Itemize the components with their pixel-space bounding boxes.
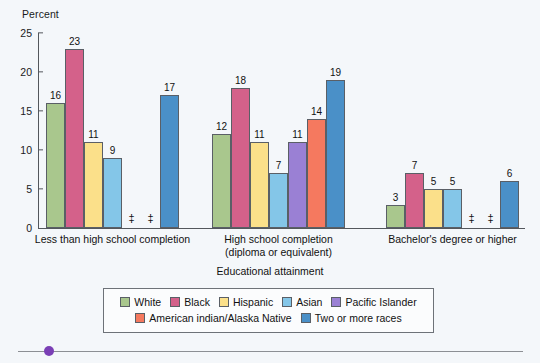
bar-value-label: 12 xyxy=(216,121,227,132)
legend-item-label: Two or more races xyxy=(315,312,402,324)
footer-divider xyxy=(18,351,523,352)
suppressed-value-marker: ‡ xyxy=(487,212,493,224)
legend-row-primary: WhiteBlackHispanicAsianPacific Islander xyxy=(112,294,425,310)
bar[interactable] xyxy=(405,173,424,228)
legend-item-label: Black xyxy=(184,296,210,308)
legend-item[interactable]: Two or more races xyxy=(301,312,402,324)
bar[interactable] xyxy=(326,80,345,228)
bar-value-label: 11 xyxy=(254,129,264,140)
y-axis-line xyxy=(38,33,39,229)
suppressed-value-marker: ‡ xyxy=(147,212,153,224)
bar-value-label: 5 xyxy=(450,176,456,187)
y-axis-tick-mark xyxy=(38,32,43,33)
legend-item[interactable]: Pacific Islander xyxy=(331,296,416,308)
legend-swatch-icon xyxy=(331,297,341,307)
legend: WhiteBlackHispanicAsianPacific Islander … xyxy=(103,288,434,333)
bar-value-label: 14 xyxy=(311,106,322,117)
y-axis-tick-label: 25 xyxy=(4,27,38,39)
suppressed-value-marker: ‡ xyxy=(468,212,474,224)
y-axis-tick-label: 15 xyxy=(4,105,38,117)
legend-swatch-icon xyxy=(170,297,180,307)
bar-value-label: 18 xyxy=(235,75,246,86)
plot-area: 05101520251623119‡‡1712181171114193755‡‡… xyxy=(38,33,525,229)
y-axis-tick-label: 10 xyxy=(4,144,38,156)
y-axis-tick-mark xyxy=(38,71,43,72)
bar-value-label: 19 xyxy=(330,67,341,78)
y-axis-title: Percent xyxy=(22,8,59,20)
bar[interactable] xyxy=(424,189,443,228)
suppressed-value-marker: ‡ xyxy=(128,212,134,224)
bar-value-label: 16 xyxy=(50,90,61,101)
x-axis-category-label: Less than high school completion xyxy=(35,233,190,246)
bar[interactable] xyxy=(443,189,462,228)
x-axis-category-label: High school completion(diploma or equiva… xyxy=(224,233,333,258)
legend-item[interactable]: American indian/Alaska Native xyxy=(135,312,291,324)
bar-value-label: 6 xyxy=(507,168,513,179)
y-axis-tick-mark xyxy=(38,149,43,150)
x-axis-category-label-line: High school completion xyxy=(224,233,333,246)
bar-group: 1218117111419 xyxy=(212,33,345,228)
bar-group: 1623119‡‡17 xyxy=(46,33,179,228)
y-axis-tick-mark xyxy=(38,188,43,189)
bar-group: 3755‡‡6 xyxy=(386,33,519,228)
bar-value-label: 7 xyxy=(276,160,282,171)
bar-value-label: 3 xyxy=(393,192,399,203)
footer-bullet-dot xyxy=(44,346,54,356)
bar-value-label: 17 xyxy=(164,82,175,93)
y-axis-tick-mark xyxy=(38,110,43,111)
bar-value-label: 23 xyxy=(69,36,80,47)
legend-swatch-icon xyxy=(135,313,145,323)
bar[interactable] xyxy=(212,134,231,228)
x-axis-title: Educational attainment xyxy=(0,265,540,277)
bar[interactable] xyxy=(386,205,405,228)
bar[interactable] xyxy=(103,158,122,228)
legend-swatch-icon xyxy=(120,297,130,307)
legend-item[interactable]: White xyxy=(120,296,161,308)
legend-item[interactable]: Asian xyxy=(282,296,322,308)
bar[interactable] xyxy=(65,49,84,228)
legend-item-label: American indian/Alaska Native xyxy=(149,312,291,324)
y-axis-tick-label: 20 xyxy=(4,66,38,78)
bar[interactable] xyxy=(307,119,326,228)
legend-item-label: White xyxy=(134,296,161,308)
bar[interactable] xyxy=(250,142,269,228)
legend-item-label: Asian xyxy=(296,296,322,308)
legend-row-secondary: American indian/Alaska NativeTwo or more… xyxy=(112,310,425,326)
bar[interactable] xyxy=(269,173,288,228)
x-axis-category-label-line: (diploma or equivalent) xyxy=(224,246,333,259)
bar-value-label: 5 xyxy=(431,176,437,187)
x-axis-category-label-line: Less than high school completion xyxy=(35,233,190,246)
y-axis-tick-label: 5 xyxy=(4,183,38,195)
legend-item-label: Hispanic xyxy=(233,296,273,308)
bar-chart-figure: Percent 05101520251623119‡‡1712181171114… xyxy=(0,0,540,363)
bar[interactable] xyxy=(46,103,65,228)
bar[interactable] xyxy=(231,88,250,228)
x-axis-category-label-line: Bachelor's degree or higher xyxy=(388,233,517,246)
bar[interactable] xyxy=(500,181,519,228)
legend-item[interactable]: Hispanic xyxy=(219,296,273,308)
bar-value-label: 11 xyxy=(88,129,98,140)
bar-value-label: 9 xyxy=(110,145,116,156)
legend-swatch-icon xyxy=(301,313,311,323)
legend-item[interactable]: Black xyxy=(170,296,210,308)
x-axis-category-label: Bachelor's degree or higher xyxy=(388,233,517,246)
legend-swatch-icon xyxy=(282,297,292,307)
bar-value-label: 7 xyxy=(412,160,418,171)
y-axis-tick-label: 0 xyxy=(4,222,38,234)
bar-value-label: 11 xyxy=(292,129,302,140)
legend-swatch-icon xyxy=(219,297,229,307)
bar[interactable] xyxy=(288,142,307,228)
legend-item-label: Pacific Islander xyxy=(345,296,416,308)
bar[interactable] xyxy=(84,142,103,228)
bar[interactable] xyxy=(160,95,179,228)
